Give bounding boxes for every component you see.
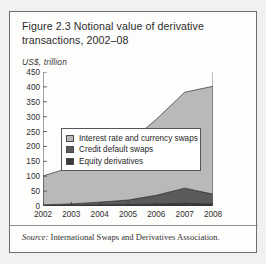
figure-title: Figure 2.3 Notional value of derivative …	[22, 20, 244, 47]
source-text: International Swaps and Derivatives Asso…	[51, 232, 220, 242]
source-divider	[10, 225, 258, 226]
y-tick-250: 250	[14, 127, 40, 136]
x-tick-2007: 2007	[176, 210, 194, 219]
y-tick-200: 200	[14, 142, 40, 151]
legend-label-equity: Equity derivatives	[79, 157, 143, 166]
y-axis-unit-label: US$, trillion	[22, 57, 67, 67]
y-tick-450: 450	[14, 68, 40, 77]
source-note: Source: International Swaps and Derivati…	[22, 232, 250, 242]
x-tick-2004: 2004	[91, 210, 109, 219]
y-tick-400: 400	[14, 82, 40, 91]
y-tick-100: 100	[14, 172, 40, 181]
legend-label-credit-default: Credit default swaps	[79, 145, 153, 154]
figure-panel: Figure 2.3 Notional value of derivative …	[0, 0, 266, 264]
x-tick-2003: 2003	[62, 210, 80, 219]
x-axis-tick-labels: 2002 2003 2004 2005 2006 2007 2008	[43, 210, 213, 224]
chart-legend: Interest rate and currency swaps Credit …	[61, 128, 201, 171]
legend-item-equity: Equity derivatives	[66, 156, 196, 167]
chart-plot-wrapper: 450 400 350 300 250 200 150 100 50 0	[10, 68, 258, 222]
x-tick-2005: 2005	[119, 210, 137, 219]
legend-item-interest-rate: Interest rate and currency swaps	[66, 133, 196, 144]
source-prefix: Source:	[22, 232, 48, 242]
x-tick-2002: 2002	[34, 210, 52, 219]
legend-swatch-credit-default	[66, 146, 74, 153]
legend-item-credit-default: Credit default swaps	[66, 144, 196, 155]
y-tick-300: 300	[14, 112, 40, 121]
x-tick-2006: 2006	[147, 210, 165, 219]
legend-label-interest-rate: Interest rate and currency swaps	[79, 134, 198, 143]
x-tick-2008: 2008	[204, 210, 222, 219]
figure-container: Figure 2.3 Notional value of derivative …	[9, 11, 257, 253]
legend-swatch-interest-rate	[66, 135, 74, 142]
legend-swatch-equity	[66, 158, 74, 165]
y-axis-tick-labels: 450 400 350 300 250 200 150 100 50 0	[10, 72, 40, 206]
y-tick-350: 350	[14, 97, 40, 106]
y-tick-150: 150	[14, 157, 40, 166]
y-tick-50: 50	[14, 187, 40, 196]
